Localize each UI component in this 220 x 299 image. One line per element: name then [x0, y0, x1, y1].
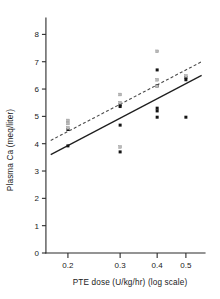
- scatter-plot: 012345678 0.20.30.40.5 Plasma Ca (meq/li…: [0, 0, 220, 299]
- y-tick-label: 5: [34, 112, 39, 121]
- data-point-marker: [184, 78, 187, 81]
- x-tick-label: 0.3: [115, 261, 127, 270]
- x-axis-ticks: 0.20.30.40.5: [62, 253, 192, 270]
- y-tick-label: 0: [34, 249, 39, 258]
- data-point-marker: [66, 144, 69, 147]
- y-tick-label: 7: [34, 58, 39, 67]
- y-tick-label: 1: [34, 222, 39, 231]
- data-point-marker: [156, 50, 159, 53]
- data-point-marker: [119, 101, 122, 104]
- y-tick-label: 8: [34, 30, 39, 39]
- y-axis-ticks: 012345678: [34, 30, 45, 258]
- data-point-marker: [156, 78, 159, 81]
- data-point-marker: [184, 75, 187, 78]
- data-point-marker: [119, 150, 122, 153]
- data-point-marker: [156, 85, 159, 88]
- x-axis-label: PTE dose (U/kg/hr) (log scale): [73, 278, 188, 287]
- data-point-marker: [119, 93, 122, 96]
- data-point-marker: [119, 146, 122, 149]
- y-tick-label: 3: [34, 167, 39, 176]
- data-point-marker: [184, 116, 187, 119]
- solid-regression-line: [51, 75, 202, 154]
- data-point-marker: [67, 119, 70, 122]
- y-tick-label: 4: [34, 140, 39, 149]
- y-axis-label: Plasma Ca (meq/liter): [6, 109, 15, 191]
- regression-lines: [51, 62, 202, 155]
- data-point-marker: [119, 124, 122, 127]
- y-tick-label: 2: [34, 194, 39, 203]
- x-tick-label: 0.5: [180, 261, 192, 270]
- x-tick-label: 0.2: [62, 261, 74, 270]
- x-tick-label: 0.4: [152, 261, 164, 270]
- data-point-marker: [67, 126, 70, 129]
- data-point-marker: [156, 107, 159, 110]
- data-point-marker: [119, 105, 122, 108]
- dashed-regression-line: [51, 62, 202, 141]
- data-points: [66, 50, 187, 153]
- chart-figure: 012345678 0.20.30.40.5 Plasma Ca (meq/li…: [0, 0, 220, 299]
- y-tick-label: 6: [34, 85, 39, 94]
- data-point-marker: [156, 116, 159, 119]
- data-point-marker: [156, 68, 159, 71]
- data-point-marker: [67, 122, 70, 125]
- axes: [46, 18, 205, 253]
- data-point-marker: [156, 109, 159, 112]
